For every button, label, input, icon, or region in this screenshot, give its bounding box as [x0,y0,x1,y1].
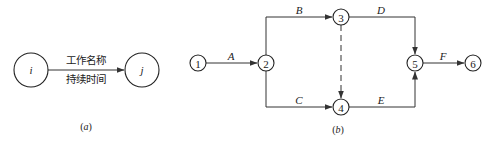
node-3: 3 [333,9,349,25]
edge-b-label: B [296,4,303,16]
edge-c-label: C [295,94,303,106]
node-5: 5 [407,55,423,71]
edge-d [349,17,415,54]
edge-b [266,17,332,55]
edge-e-label: E [377,94,385,106]
node-6: 6 [465,55,481,71]
edge-d-label: D [376,4,385,16]
svg-text:6: 6 [470,58,476,70]
node-2: 2 [258,55,274,71]
svg-text:1: 1 [195,58,201,70]
node-i-label: i [29,64,32,76]
caption-b: (b) [332,124,344,136]
activity-name-label: 工作名称 [66,54,107,66]
network-diagrams: i j 工作名称 持续时间 (a) A B C D E F 1 2 [0,0,494,143]
activity-duration-label: 持续时间 [66,73,106,85]
svg-text:5: 5 [412,58,418,70]
caption-a: (a) [80,121,92,133]
svg-text:2: 2 [263,58,269,70]
svg-text:4: 4 [338,102,344,114]
diagram-b: A B C D E F 1 2 3 4 5 6 (b) [190,4,481,136]
diagram-a: i j 工作名称 持续时间 (a) [14,53,159,133]
svg-text:3: 3 [338,12,344,24]
edge-f-label: F [439,50,447,62]
edge-a-label: A [227,50,235,62]
node-4: 4 [333,99,349,115]
node-j: j [125,53,159,87]
node-1: 1 [190,55,206,71]
node-i: i [14,53,48,87]
